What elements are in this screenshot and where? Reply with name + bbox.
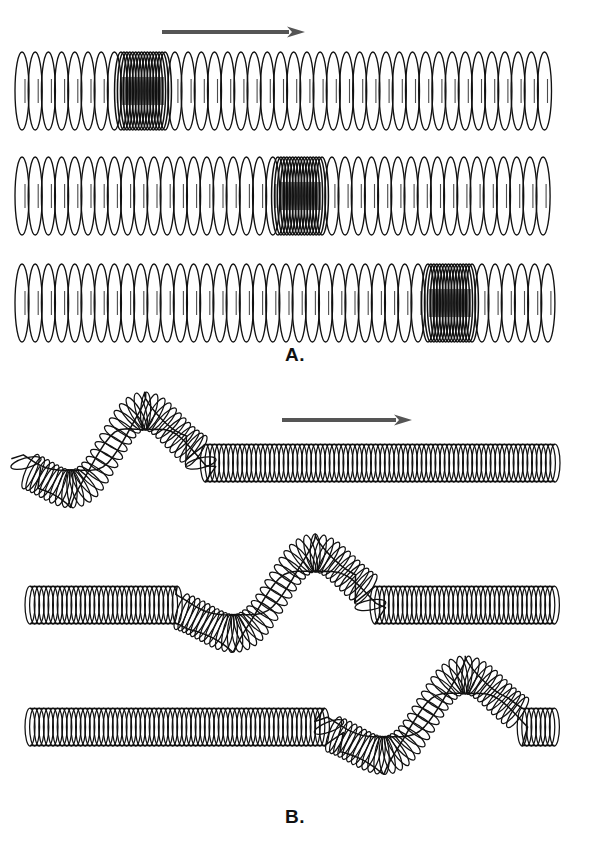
spring-coil: [28, 52, 42, 130]
spring-coil: [536, 157, 550, 235]
spring-coil: [55, 157, 69, 235]
spring-coil: [511, 52, 525, 130]
spring-coil: [15, 157, 29, 235]
panel-label-b: B.: [265, 806, 325, 828]
spring-coil: [457, 157, 471, 235]
spring-coil: [107, 264, 121, 342]
spring-coil: [378, 157, 392, 235]
spring-coil: [351, 157, 365, 235]
spring-coil: [332, 264, 346, 342]
spring-coil: [253, 264, 267, 342]
spring-coil: [325, 157, 339, 235]
spring-coil: [226, 264, 240, 342]
transverse-wave-1: [10, 392, 560, 508]
spring-coil: [483, 157, 497, 235]
spring-coil: [94, 157, 108, 235]
spring-coil: [541, 264, 555, 342]
spring-coil: [353, 52, 367, 130]
spring-coil: [213, 157, 227, 235]
spring-coil: [266, 264, 280, 342]
spring-coil: [445, 52, 459, 130]
spring-coil: [406, 52, 420, 130]
panel-label-a: A.: [265, 344, 325, 366]
spring-coil: [55, 52, 69, 130]
spring-coil: [398, 264, 412, 342]
spring-coil: [200, 264, 214, 342]
spring-coil: [300, 52, 314, 130]
spring-coil: [524, 52, 538, 130]
spring-coil: [81, 52, 95, 130]
spring-coil: [121, 264, 135, 342]
spring-coil: [160, 157, 174, 235]
spring-coil: [147, 157, 161, 235]
spring-coil: [260, 52, 274, 130]
spring-coil: [510, 157, 524, 235]
spring-coil: [345, 264, 359, 342]
wave-diagram-canvas: [0, 0, 592, 853]
spring-coil: [81, 264, 95, 342]
wave-diagram-figure: A. B.: [0, 0, 592, 853]
spring-coil: [247, 52, 261, 130]
spring-coil: [213, 264, 227, 342]
spring-coil: [326, 52, 340, 130]
spring-coil: [444, 157, 458, 235]
spring-coil: [194, 52, 208, 130]
spring-coil: [234, 52, 248, 130]
spring-coil: [488, 264, 502, 342]
compression-core: [122, 77, 164, 105]
spring-coil: [94, 52, 108, 130]
spring-coil: [208, 52, 222, 130]
spring-coil: [340, 52, 354, 130]
spring-coil: [319, 264, 333, 342]
spring-coil: [68, 264, 82, 342]
spring-coil: [168, 52, 182, 130]
spring-coil: [404, 157, 418, 235]
spring-coil: [41, 157, 55, 235]
spring-coil: [358, 264, 372, 342]
spring-coil: [391, 157, 405, 235]
spring-coil: [173, 157, 187, 235]
spring-coil: [392, 52, 406, 130]
spring-coil: [41, 52, 55, 130]
transverse-wave-2: [25, 534, 559, 653]
spring-coil: [274, 52, 288, 130]
spring-coil: [501, 264, 515, 342]
spring-row-2: [15, 157, 550, 235]
spring-coil: [470, 157, 484, 235]
spring-coil: [121, 157, 135, 235]
spring-coil: [366, 52, 380, 130]
spring-coil: [292, 264, 306, 342]
spring-coil: [239, 264, 253, 342]
spring-coil: [485, 52, 499, 130]
slinky-coil: [79, 459, 111, 486]
spring-coil: [181, 52, 195, 130]
spring-coil: [28, 157, 42, 235]
spring-coil: [379, 52, 393, 130]
spring-coil: [107, 157, 121, 235]
compression-core: [279, 182, 321, 210]
spring-row-1: [15, 52, 552, 130]
spring-coil: [200, 157, 214, 235]
spring-coil: [15, 52, 29, 130]
propagation-arrow-b-head: [394, 415, 412, 426]
spring-coil: [15, 264, 29, 342]
spring-coil: [160, 264, 174, 342]
spring-coil: [338, 157, 352, 235]
spring-row-3: [15, 264, 555, 342]
spring-coil: [417, 157, 431, 235]
spring-coil: [497, 157, 511, 235]
spring-coil: [187, 264, 201, 342]
spring-coil: [313, 52, 327, 130]
spring-coil: [94, 264, 108, 342]
spring-coil: [226, 157, 240, 235]
spring-coil: [538, 52, 552, 130]
spring-coil: [419, 52, 433, 130]
slinky-coil: [249, 597, 281, 623]
spring-coil: [187, 157, 201, 235]
spring-coil: [253, 157, 267, 235]
spring-coil: [475, 264, 489, 342]
spring-coil: [385, 264, 399, 342]
spring-coil: [371, 264, 385, 342]
spring-coil: [134, 264, 148, 342]
spring-coil: [458, 52, 472, 130]
